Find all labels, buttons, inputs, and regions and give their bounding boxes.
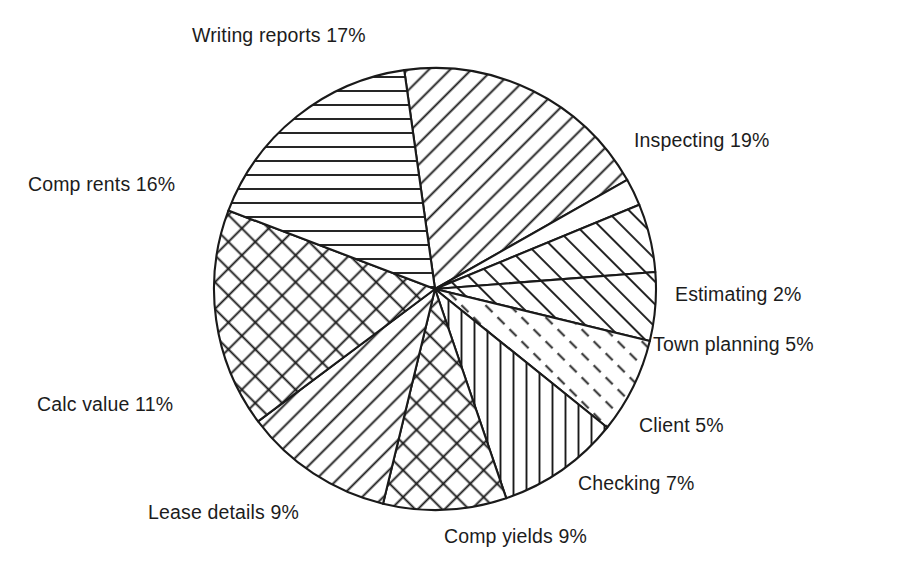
pie-label-calc-value: Calc value 11% xyxy=(37,395,173,415)
pie-label-client: Client 5% xyxy=(639,416,724,436)
pie-slices xyxy=(214,68,656,510)
pie-label-comp-rents: Comp rents 16% xyxy=(28,175,175,195)
pie-label-town-planning: Town planning 5% xyxy=(653,335,814,355)
pie-chart-figure: Inspecting 19%Estimating 2%Town planning… xyxy=(0,0,908,573)
pie-label-comp-yields: Comp yields 9% xyxy=(444,527,587,547)
pie-label-lease-details: Lease details 9% xyxy=(148,503,299,523)
pie-label-estimating: Estimating 2% xyxy=(675,285,802,305)
pie-label-writing-reports: Writing reports 17% xyxy=(192,26,366,46)
pie-label-checking: Checking 7% xyxy=(578,474,695,494)
pie-label-inspecting: Inspecting 19% xyxy=(634,131,769,151)
